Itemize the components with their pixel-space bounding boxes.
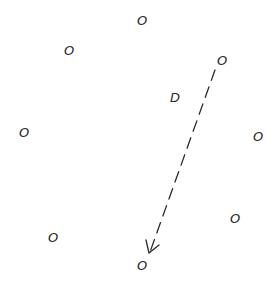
dashed-arrow-line	[150, 70, 215, 252]
edge-layer	[0, 0, 278, 283]
